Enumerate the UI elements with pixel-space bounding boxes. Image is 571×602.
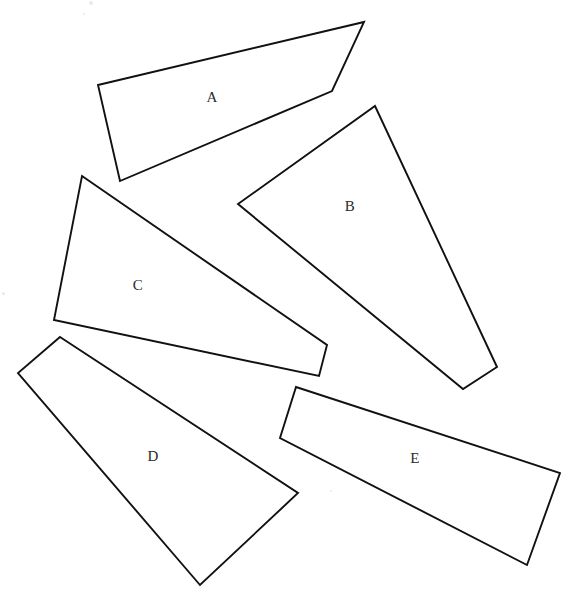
polygon-label-a: A bbox=[206, 89, 217, 105]
polygon-e[interactable] bbox=[280, 387, 560, 565]
polygon-label-d: D bbox=[147, 448, 158, 464]
polygon-label-e: E bbox=[410, 450, 419, 466]
polygon-label-c: C bbox=[133, 277, 143, 293]
polygon-label-b: B bbox=[345, 198, 355, 214]
figure-canvas: A B C D E bbox=[0, 0, 571, 602]
polygon-figure: A B C D E bbox=[0, 0, 571, 602]
